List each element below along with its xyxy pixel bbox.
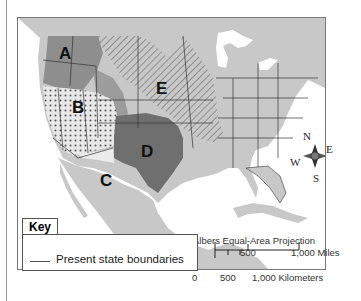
- scale-miles-1000: 1,000 Miles: [291, 247, 340, 258]
- compass-rose: [303, 144, 325, 168]
- key-item-state-boundaries: Present state boundaries: [56, 253, 184, 265]
- state-boundary-line-symbol: [30, 261, 50, 262]
- land-cuba: [233, 203, 308, 223]
- projection-label: Albers Equal-Area Projection: [193, 235, 315, 246]
- page-margin-rule: [6, 0, 7, 301]
- compass-e: E: [326, 143, 333, 155]
- compass-n: N: [303, 130, 311, 142]
- scale-km-500: 500: [220, 272, 236, 283]
- scale-km-1000: 1,000 Kilometers: [252, 272, 323, 283]
- compass-w: W: [290, 156, 300, 168]
- region-label-c: C: [100, 171, 112, 191]
- scale-miles-500: 500: [240, 247, 256, 258]
- region-label-e: E: [156, 79, 167, 99]
- scale-km-0: 0: [192, 272, 197, 283]
- region-label-d: D: [141, 142, 153, 162]
- compass-s: S: [313, 172, 319, 184]
- region-label-a: A: [59, 44, 71, 64]
- key-title: Key: [22, 218, 58, 235]
- region-label-b: B: [72, 98, 84, 118]
